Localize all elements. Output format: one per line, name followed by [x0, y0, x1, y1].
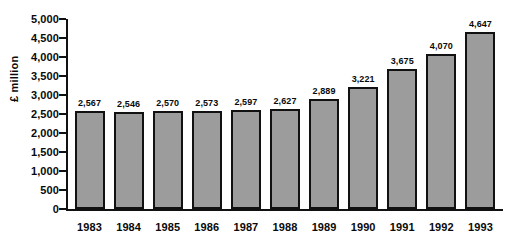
- x-tick-label: 1993: [468, 221, 493, 233]
- bar-group[interactable]: 2,5731986: [187, 0, 226, 244]
- bar-value-label: 3,675: [391, 56, 414, 66]
- bar[interactable]: [387, 69, 417, 209]
- bar-value-label: 2,573: [195, 98, 218, 108]
- bar-group[interactable]: 2,5701985: [148, 0, 187, 244]
- x-tick-label: 1990: [351, 221, 376, 233]
- x-tick-label: 1983: [77, 221, 102, 233]
- bar-group[interactable]: 2,8891989: [305, 0, 344, 244]
- bar[interactable]: [426, 54, 456, 209]
- x-tick-label: 1992: [429, 221, 454, 233]
- bar-chart: £ million 5,0004,5004,0003,5003,0002,500…: [0, 0, 518, 244]
- bar-group[interactable]: 3,2211990: [344, 0, 383, 244]
- bar-group[interactable]: 2,6271988: [265, 0, 304, 244]
- bar-group[interactable]: 4,0701992: [422, 0, 461, 244]
- bar[interactable]: [114, 112, 144, 209]
- bar[interactable]: [75, 111, 105, 209]
- bar-value-label: 3,221: [352, 74, 375, 84]
- bar[interactable]: [309, 99, 339, 209]
- x-tick-label: 1991: [390, 221, 415, 233]
- bar-group[interactable]: 2,5671983: [70, 0, 109, 244]
- bar-value-label: 2,889: [313, 86, 336, 96]
- bar-group[interactable]: 3,6751991: [383, 0, 422, 244]
- x-tick-label: 1986: [194, 221, 219, 233]
- x-tick-label: 1985: [155, 221, 180, 233]
- bar[interactable]: [270, 109, 300, 209]
- x-tick-label: 1989: [312, 221, 337, 233]
- x-tick-label: 1984: [116, 221, 141, 233]
- bar-group[interactable]: 2,5971987: [226, 0, 265, 244]
- bar-group[interactable]: 4,6471993: [461, 0, 500, 244]
- bar[interactable]: [465, 32, 495, 209]
- bars-layer: 2,56719832,54619842,57019852,57319862,59…: [0, 0, 518, 244]
- bar[interactable]: [153, 111, 183, 209]
- bar-value-label: 2,627: [273, 96, 296, 106]
- bar-value-label: 2,546: [117, 99, 140, 109]
- bar[interactable]: [231, 110, 261, 209]
- bar-value-label: 4,647: [469, 19, 492, 29]
- x-tick-label: 1987: [233, 221, 258, 233]
- bar-value-label: 2,570: [156, 98, 179, 108]
- bar-value-label: 4,070: [430, 41, 453, 51]
- bar-group[interactable]: 2,5461984: [109, 0, 148, 244]
- x-tick-label: 1988: [273, 221, 298, 233]
- bar-value-label: 2,567: [78, 98, 101, 108]
- bar-value-label: 2,597: [234, 97, 257, 107]
- bar[interactable]: [348, 87, 378, 209]
- bar[interactable]: [192, 111, 222, 209]
